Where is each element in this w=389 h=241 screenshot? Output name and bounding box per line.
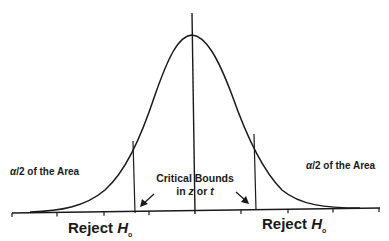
right-critical-line [254,134,256,210]
or-text: or [194,185,210,197]
in-text: in [176,185,188,197]
normal-curve-diagram [0,0,389,241]
left-reject-label: Reject Ho [68,219,132,238]
right-reject-label: Reject Ho [262,215,326,234]
subscript: o [128,231,132,238]
critical-bounds-line1: Critical Bounds [150,172,240,185]
reject-text: Reject [262,215,311,232]
left-critical-line [133,141,135,213]
area-text: /2 of the Area [312,160,375,171]
subscript: o [322,227,326,234]
reject-text: Reject [68,219,117,236]
t-symbol: t [210,185,214,197]
area-text: /2 of the Area [16,166,79,177]
critical-bounds-label: Critical Bounds in z or t [150,172,240,198]
h-symbol: H [117,219,128,236]
right-tail-area-label: α/2 of the Area [306,160,375,171]
critical-bounds-line2: in z or t [150,185,240,198]
x-axis [12,208,380,213]
h-symbol: H [311,215,322,232]
left-tail-area-label: α/2 of the Area [10,166,79,177]
